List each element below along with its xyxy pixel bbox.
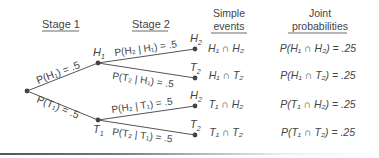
t1-node <box>96 118 101 123</box>
branch-label-p-t1: P(T₁) = .5 <box>35 93 81 121</box>
joint-probability-2: P(H₁ ∩ T₂) = .25 <box>280 69 355 81</box>
joint-probabilities-header-line1: Joint <box>309 7 331 19</box>
h2-node-bottom <box>193 104 198 109</box>
branch-label-p-h1: P(H₁) = .5 <box>34 58 81 86</box>
h1-label: H1 <box>93 46 105 60</box>
joint-probability-3: P(T₁ ∩ H₂) = .25 <box>280 98 355 110</box>
h2-node-top <box>193 47 198 52</box>
root-node <box>25 89 30 94</box>
simple-event-3: T₁ ∩ H₂ <box>209 98 244 110</box>
outcomes-table: H₁ ∩ H₂ P(H₁ ∩ H₂) = .25 H₁ ∩ T₂ P(H₁ ∩ … <box>208 42 356 138</box>
tree-branches <box>27 49 195 135</box>
t2-node-top <box>193 76 198 81</box>
simple-event-1: H₁ ∩ H₂ <box>208 42 244 54</box>
tree-nodes <box>25 47 198 138</box>
t2-label-top: T2 <box>190 61 201 75</box>
t2-node-bottom <box>193 133 198 138</box>
h2-label-bottom: H2 <box>190 89 202 103</box>
stage2-header: Stage 2 <box>132 18 170 30</box>
simple-event-2: H₁ ∩ T₂ <box>209 69 244 81</box>
branch-label-p-t2-given-t1: P(T₂ | T₁) = .5 <box>112 126 174 144</box>
stage1-header: Stage 1 <box>42 18 80 30</box>
h1-node <box>96 61 101 66</box>
joint-probability-1: P(H₁ ∩ H₂) = .25 <box>280 42 357 54</box>
branch-label-p-h2-given-t1: P(H₂ | T₁) = .5 <box>111 95 174 115</box>
joint-probability-4: P(T₁ ∩ T₂) = .25 <box>281 126 355 138</box>
simple-events-header-line2: events <box>214 20 245 32</box>
simple-event-4: T₁ ∩ T₂ <box>209 126 243 138</box>
bottom-divider <box>0 153 379 155</box>
h2-label-top: H2 <box>190 32 202 46</box>
branch-label-p-h2-given-h1: P(H₂ | H₁) = .5 <box>114 38 178 58</box>
t1-label: T1 <box>93 123 104 137</box>
t2-label-bottom: T2 <box>190 118 201 132</box>
probability-tree-diagram: Stage 1 Stage 2 Simple events Joint prob… <box>0 0 379 158</box>
joint-probabilities-header-line2: probabilities <box>292 20 348 32</box>
simple-events-header-line1: Simple <box>213 7 245 19</box>
